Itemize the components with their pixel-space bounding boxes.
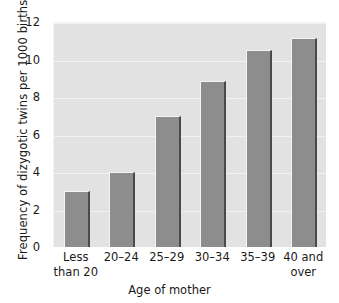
y-tick-label: 2 (33, 203, 40, 217)
bar (109, 172, 135, 247)
y-tick-label: 0 (33, 240, 40, 254)
plot-area (53, 22, 326, 247)
bar (64, 191, 90, 247)
y-tick-label: 6 (33, 128, 40, 142)
bar (246, 50, 272, 247)
y-tick-label: 4 (33, 165, 40, 179)
bar-chart-figure: Frequency of dizygotic twins per 1000 bi… (0, 0, 339, 303)
bar (200, 81, 226, 247)
bar (155, 116, 181, 247)
x-axis-title: Age of mother (0, 283, 339, 297)
y-tick-label: 12 (25, 15, 40, 29)
x-tick-label: 40 andover (268, 250, 338, 279)
bar-series (54, 23, 326, 247)
y-tick-label: 10 (25, 53, 40, 67)
bar (291, 38, 317, 247)
y-tick-label: 8 (33, 90, 40, 104)
